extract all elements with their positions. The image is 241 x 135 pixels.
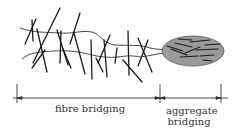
fibre-bridging-label: fibre bridging: [50, 104, 130, 114]
arrowhead-left: [17, 97, 22, 100]
aggregate-particle: [162, 36, 224, 66]
dimension-scale: [13, 84, 228, 103]
arrowhead-mid-right: [160, 97, 165, 100]
arrowhead-right: [216, 97, 221, 100]
aggregate-bridging-label-line2: bridging: [166, 117, 212, 127]
upper-crack-face: [20, 28, 170, 50]
aggregate-bridging-label-line1: aggregate: [166, 106, 216, 116]
